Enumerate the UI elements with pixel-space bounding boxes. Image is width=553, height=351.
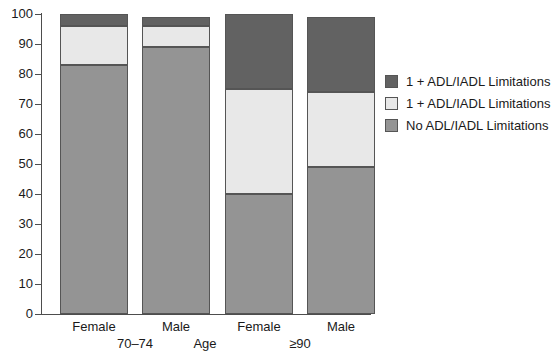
y-tick-label: 20 (3, 247, 33, 260)
plot-area (41, 14, 371, 314)
legend-label: No ADL/IADL Limitations (406, 119, 549, 132)
y-tick-label-wrap: 10 (0, 277, 33, 290)
y-tick-label-wrap: 20 (0, 247, 33, 260)
y-tick-label: 50 (3, 157, 33, 170)
y-tick-label-wrap: 50 (0, 157, 33, 170)
bar-segment[interactable] (60, 14, 128, 26)
bar-segment[interactable] (60, 26, 128, 65)
y-tick-label-wrap: 80 (0, 67, 33, 80)
y-tick-label: 90 (3, 37, 33, 50)
y-tick-mark (35, 314, 41, 315)
y-tick-label-wrap: 40 (0, 187, 33, 200)
y-tick-label: 0 (3, 307, 33, 320)
bar-segment[interactable] (142, 26, 210, 47)
legend-swatch-light (385, 97, 398, 110)
legend-item: No ADL/IADL Limitations (385, 114, 550, 136)
y-tick-label-wrap: 100 (0, 7, 33, 20)
bar-segment[interactable] (225, 89, 293, 194)
bar-segment[interactable] (225, 194, 293, 314)
legend-label: 1 + ADL/IADL Limitations (406, 75, 550, 88)
stacked-bar[interactable] (225, 14, 293, 314)
y-tick-label: 60 (3, 127, 33, 140)
bar-segment[interactable] (60, 65, 128, 314)
x-axis-line (41, 314, 371, 315)
x-category-label: Female (60, 319, 128, 334)
y-tick-label-wrap: 60 (0, 127, 33, 140)
y-tick-label-wrap: 0 (0, 307, 33, 320)
chart-legend: 1 + ADL/IADL Limitations 1 + ADL/IADL Li… (385, 70, 550, 136)
y-tick-label: 100 (3, 7, 33, 20)
x-category-label: Female (225, 319, 293, 334)
legend-swatch-medium (385, 119, 398, 132)
legend-item: 1 + ADL/IADL Limitations (385, 92, 550, 114)
y-tick-label: 30 (3, 217, 33, 230)
legend-label: 1 + ADL/IADL Limitations (406, 97, 550, 110)
legend-item: 1 + ADL/IADL Limitations (385, 70, 550, 92)
legend-swatch-dark (385, 75, 398, 88)
bar-segment[interactable] (307, 92, 375, 167)
bar-segment[interactable] (225, 14, 293, 89)
x-category-label: Male (307, 319, 375, 334)
x-category-label: Male (142, 319, 210, 334)
y-tick-label: 40 (3, 187, 33, 200)
bar-segment[interactable] (142, 17, 210, 26)
y-tick-label: 70 (3, 97, 33, 110)
x-group-label: ≥90 (260, 337, 340, 351)
bar-segment[interactable] (142, 47, 210, 314)
bar-segment[interactable] (307, 17, 375, 92)
bar-segment[interactable] (307, 167, 375, 314)
y-tick-label: 80 (3, 67, 33, 80)
x-axis-title: Age (155, 337, 255, 351)
stacked-bar[interactable] (142, 17, 210, 314)
y-tick-label: 10 (3, 277, 33, 290)
stacked-bar[interactable] (307, 17, 375, 314)
y-tick-label-wrap: 70 (0, 97, 33, 110)
stacked-bar[interactable] (60, 14, 128, 314)
y-tick-label-wrap: 30 (0, 217, 33, 230)
y-tick-label-wrap: 90 (0, 37, 33, 50)
